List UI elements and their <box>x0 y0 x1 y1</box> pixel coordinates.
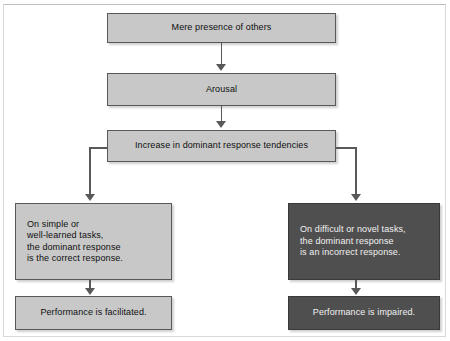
arrowhead-left-condition-to-outcome <box>85 288 95 295</box>
connector-presence-to-arousal <box>221 43 223 66</box>
arrowhead-right-condition-to-outcome <box>351 288 361 295</box>
node-left-condition-label: On simple or well-learned tasks, the dom… <box>16 219 171 265</box>
node-left-outcome-label: Performance is facilitated. <box>16 307 171 319</box>
arrowhead-branch-left <box>85 194 95 201</box>
node-right-outcome-label: Performance is impaired. <box>289 307 439 319</box>
arrowhead-arousal-to-increase <box>216 121 226 128</box>
node-left-outcome: Performance is facilitated. <box>15 296 172 330</box>
arrowhead-branch-right <box>351 194 361 201</box>
arrowhead-presence-to-arousal <box>216 64 226 71</box>
node-increase-in-dominant-response-tendencies: Increase in dominant response tendencies <box>107 130 336 162</box>
node-arousal-label: Arousal <box>108 84 335 96</box>
connector-branch-left-vertical <box>89 147 91 197</box>
node-right-outcome: Performance is impaired. <box>288 296 440 330</box>
node-right-condition: On difficult or novel tasks, the dominan… <box>288 203 440 280</box>
flowchart-figure: Mere presence of others Arousal Increase… <box>0 0 450 341</box>
figure-frame <box>3 4 446 337</box>
connector-branch-left-horizontal <box>89 147 108 149</box>
node-right-condition-label: On difficult or novel tasks, the dominan… <box>289 224 439 259</box>
connector-branch-right-horizontal <box>336 147 356 149</box>
node-mere-presence-of-others-label: Mere presence of others <box>108 22 335 34</box>
node-increase-in-dominant-response-tendencies-label: Increase in dominant response tendencies <box>108 140 335 152</box>
node-left-condition: On simple or well-learned tasks, the dom… <box>15 203 172 280</box>
node-arousal: Arousal <box>107 73 336 106</box>
node-mere-presence-of-others: Mere presence of others <box>107 13 336 43</box>
connector-branch-right-vertical <box>355 147 357 197</box>
